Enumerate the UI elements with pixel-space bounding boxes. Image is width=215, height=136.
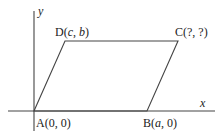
vertex-d-label: D(c, b) <box>55 25 89 39</box>
vertex-c-label: C(?, ?) <box>175 25 208 39</box>
vertex-b-label: B(a, 0) <box>143 116 177 130</box>
x-axis-label: x <box>199 96 206 110</box>
y-axis-label: y <box>37 4 44 18</box>
parallelogram-abcd <box>34 41 178 111</box>
vertex-a-label: A(0, 0) <box>36 116 71 130</box>
coordinate-diagram: y x D(c, b) C(?, ?) A(0, 0) B(a, 0) <box>0 0 215 136</box>
